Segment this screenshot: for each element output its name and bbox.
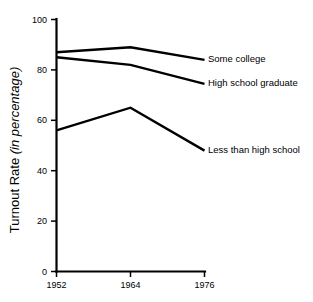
y-axis-title-plain: Turnout Rate: [7, 154, 22, 233]
y-axis-title: Turnout Rate (in percentage): [7, 67, 22, 233]
x-tick-label-1964: 1964: [120, 280, 140, 290]
series-line-less-than-high-school: [57, 108, 205, 151]
series-label-high-school-graduate: High school graduate: [208, 77, 298, 88]
y-tick-label-60: 60: [37, 115, 47, 125]
y-tick-label-0: 0: [42, 267, 47, 277]
y-tick-label-20: 20: [37, 216, 47, 226]
x-tick-label-1952: 1952: [46, 280, 66, 290]
series-label-less-than-high-school: Less than high school: [208, 144, 300, 155]
y-axis-title-italic: (in percentage): [7, 67, 22, 154]
turnout-rate-line-chart: 0 20 40 60 80 100 1952 1964 1976 Some co…: [0, 0, 313, 302]
y-tick-label-40: 40: [37, 166, 47, 176]
series-line-some-college: [57, 47, 205, 60]
chart-page: 0 20 40 60 80 100 1952 1964 1976 Some co…: [0, 0, 313, 302]
y-tick-label-100: 100: [32, 15, 47, 25]
y-tick-label-80: 80: [37, 65, 47, 75]
x-tick-label-1976: 1976: [194, 280, 214, 290]
series-label-some-college: Some college: [208, 53, 266, 64]
series-line-high-school-graduate: [57, 57, 205, 84]
